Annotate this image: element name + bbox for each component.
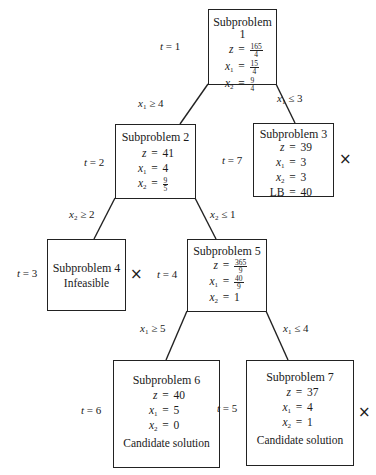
- x2-row: x2=1: [188, 291, 266, 305]
- x1-value: 4: [163, 163, 183, 175]
- fathomed-x-icon: ×: [358, 403, 371, 421]
- node-subproblem-6: Subproblem 6 z=40 x1=5 x2=0 Candidate so…: [113, 360, 220, 468]
- t-label-sp1: t = 1: [160, 40, 180, 52]
- x2-value: 1: [234, 292, 254, 304]
- x2-label: x2: [216, 78, 234, 91]
- lb-row: LB=40: [254, 186, 333, 200]
- z-row: z = 1654: [209, 43, 276, 57]
- node-subproblem-5: Subproblem 5 z= 3659 x1= 409 x2=1: [187, 239, 267, 312]
- z-value: 3659: [234, 259, 247, 274]
- x2-value: 3: [301, 172, 321, 184]
- z-value: 41: [163, 148, 183, 160]
- x2-value: 0: [174, 420, 194, 432]
- node-title: Subproblem 1: [209, 16, 276, 40]
- x2-row: x2=1: [247, 416, 353, 430]
- z-row: z=40: [114, 389, 219, 403]
- x2-row: x2 = 94: [209, 77, 276, 91]
- z-value: 39: [301, 142, 321, 154]
- edge-label-sp2-sp5: x2 ≤ 1: [210, 208, 235, 222]
- x1-value: 3: [301, 157, 321, 169]
- z-row: z=37: [247, 386, 353, 400]
- t-label-sp7: t = 5: [217, 402, 237, 414]
- z-value: 1654: [250, 43, 263, 58]
- status-text: Candidate solution: [247, 435, 353, 447]
- lb-value: 40: [301, 187, 321, 199]
- t-label-sp2: t = 2: [84, 156, 104, 168]
- node-title: Subproblem 4: [48, 262, 125, 274]
- x2-row: x2=0: [114, 419, 219, 433]
- status-text: Infeasible: [48, 278, 125, 290]
- node-title: Subproblem 5: [188, 245, 266, 257]
- node-title: Subproblem 6: [114, 374, 219, 386]
- node-title: Subproblem 3: [254, 128, 333, 140]
- z-value: 40: [174, 390, 194, 402]
- x1-row: x1 = 154: [209, 60, 276, 74]
- x1-value: 5: [174, 405, 194, 417]
- x1-label: x1: [216, 61, 234, 74]
- edge-sp5-sp6: [166, 311, 187, 360]
- x1-row: x1=4: [116, 162, 195, 176]
- x2-row: x2=3: [254, 171, 333, 185]
- x1-value: 409: [234, 275, 244, 290]
- z-row: z=41: [116, 147, 195, 161]
- fathomed-x-icon: ×: [130, 265, 143, 283]
- edge-label-sp1-sp2: x1 ≥ 4: [138, 97, 163, 111]
- edge-sp2-sp4: [94, 198, 115, 239]
- edge-label-sp2-sp4: x2 ≥ 2: [69, 208, 94, 222]
- t-label-sp3: t = 7: [222, 154, 242, 166]
- x2-row: x2= 95: [116, 177, 195, 191]
- status-text: Candidate solution: [114, 438, 219, 450]
- z-row: z= 3659: [188, 259, 266, 273]
- x1-row: x1=4: [247, 401, 353, 415]
- fathomed-x-icon: ×: [339, 150, 352, 168]
- x1-value: 4: [307, 402, 327, 414]
- t-label-sp6: t = 6: [81, 404, 101, 416]
- x1-row: x1=5: [114, 404, 219, 418]
- node-subproblem-7: Subproblem 7 z=37 x1=4 x2=1 Candidate so…: [246, 360, 354, 466]
- x2-value: 1: [307, 417, 327, 429]
- x1-row: x1= 409: [188, 275, 266, 289]
- z-label: z: [216, 44, 234, 56]
- t-label-sp5: t = 4: [157, 268, 177, 280]
- x2-value: 94: [250, 77, 256, 92]
- x1-row: x1=3: [254, 156, 333, 170]
- t-label-sp4: t = 3: [17, 267, 37, 279]
- node-subproblem-1: Subproblem 1 z = 1654 x1 = 154 x2 = 94: [208, 9, 277, 85]
- z-row: z=39: [254, 141, 333, 155]
- node-title: Subproblem 2: [116, 131, 195, 143]
- node-subproblem-3: Subproblem 3 z=39 x1=3 x2=3 LB=40: [253, 123, 334, 197]
- node-title: Subproblem 7: [247, 371, 353, 383]
- edge-sp1-sp2: [180, 84, 208, 124]
- x2-value: 95: [163, 177, 169, 192]
- x1-value: 154: [250, 60, 260, 75]
- node-subproblem-4: Subproblem 4 Infeasible: [47, 239, 126, 311]
- node-subproblem-2: Subproblem 2 z=41 x1=4 x2= 95: [115, 124, 196, 199]
- z-value: 37: [307, 387, 327, 399]
- edge-label-sp1-sp3: x1 ≤ 3: [277, 92, 302, 106]
- edge-label-sp5-sp6: x1 ≥ 5: [140, 322, 165, 336]
- edge-label-sp5-sp7: x1 ≤ 4: [283, 322, 308, 336]
